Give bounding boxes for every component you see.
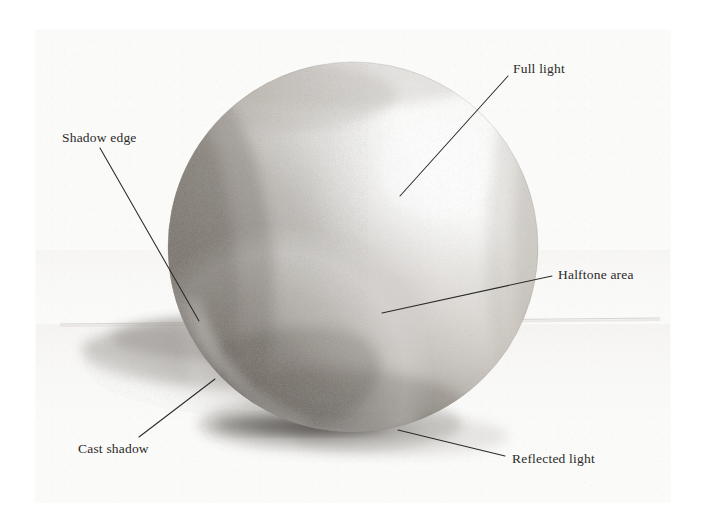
label-cast-shadow: Cast shadow [78,442,149,456]
paper-texture-overlay [36,30,670,502]
label-reflected-light: Reflected light [512,452,595,466]
drawing-canvas: Full light Shadow edge Halftone area Cas… [0,0,703,532]
label-halftone-area: Halftone area [558,268,634,282]
label-full-light: Full light [513,62,565,76]
label-shadow-edge: Shadow edge [62,131,137,145]
